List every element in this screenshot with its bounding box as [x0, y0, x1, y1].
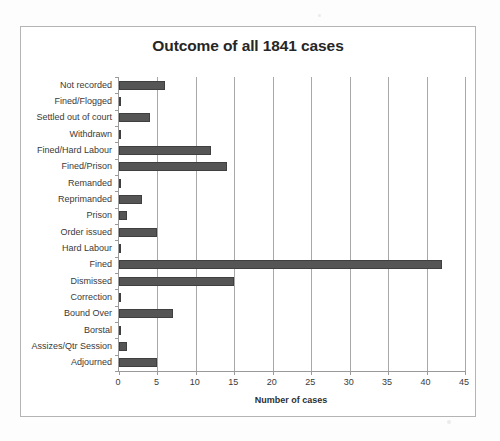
y-axis-label: Correction — [23, 289, 116, 305]
x-tick-mark — [196, 371, 197, 375]
x-axis-tick-label: 10 — [190, 377, 200, 387]
x-axis-title: Number of cases — [118, 395, 464, 405]
y-axis-label: Withdrawn — [23, 126, 116, 142]
bar[interactable] — [119, 162, 227, 171]
bar-slot — [119, 77, 465, 93]
x-tick-mark — [465, 371, 466, 375]
y-axis-label: Assizes/Qtr Session — [23, 338, 116, 354]
plot-area — [118, 77, 465, 372]
bar-slot — [119, 208, 465, 224]
x-axis-tick-label: 5 — [154, 377, 159, 387]
x-axis-tick-label: 15 — [228, 377, 238, 387]
bar[interactable] — [119, 97, 121, 106]
x-axis-tick-label: 30 — [344, 377, 354, 387]
bar[interactable] — [119, 81, 165, 90]
bar[interactable] — [119, 309, 173, 318]
bar-slot — [119, 142, 465, 158]
bar[interactable] — [119, 260, 442, 269]
bar[interactable] — [119, 228, 157, 237]
y-axis-label: Fined/Flogged — [23, 93, 116, 109]
x-tick-mark — [311, 371, 312, 375]
scan-speck — [318, 14, 321, 17]
y-axis-label: Fined — [23, 257, 116, 273]
bar-slot — [119, 322, 465, 338]
bar-slot — [119, 93, 465, 109]
y-axis-category-labels: Not recordedFined/FloggedSettled out of … — [23, 77, 116, 371]
bar-slot — [119, 224, 465, 240]
plot-wrapper: Not recordedFined/FloggedSettled out of … — [21, 27, 475, 416]
x-axis-tick-labels: 051015202530354045 — [118, 377, 464, 391]
bar[interactable] — [119, 113, 150, 122]
x-axis-tick-label: 45 — [459, 377, 469, 387]
y-axis-label: Fined/Hard Labour — [23, 142, 116, 158]
bar[interactable] — [119, 195, 142, 204]
x-tick-mark — [427, 371, 428, 375]
y-axis-label: Bound Over — [23, 306, 116, 322]
x-axis-tick-label: 35 — [382, 377, 392, 387]
x-axis-tick-label: 0 — [115, 377, 120, 387]
x-tick-mark — [388, 371, 389, 375]
bar-slot — [119, 126, 465, 142]
bar-slot — [119, 338, 465, 354]
bar-slot — [119, 110, 465, 126]
y-axis-label: Remanded — [23, 175, 116, 191]
bar-slot — [119, 257, 465, 273]
x-tick-mark — [119, 371, 120, 375]
gridline — [465, 77, 466, 371]
bar[interactable] — [119, 326, 121, 335]
bar[interactable] — [119, 244, 121, 253]
x-axis-tick-label: 40 — [421, 377, 431, 387]
y-axis-label: Reprimanded — [23, 191, 116, 207]
x-tick-mark — [234, 371, 235, 375]
y-axis-label: Prison — [23, 208, 116, 224]
y-axis-label: Order issued — [23, 224, 116, 240]
x-tick-mark — [273, 371, 274, 375]
y-axis-label: Dismissed — [23, 273, 116, 289]
x-tick-mark — [350, 371, 351, 375]
bar-slot — [119, 306, 465, 322]
y-axis-label: Not recorded — [23, 77, 116, 93]
bar-slot — [119, 159, 465, 175]
bar[interactable] — [119, 146, 211, 155]
y-axis-label: Adjourned — [23, 355, 116, 371]
bar-series — [119, 77, 465, 371]
y-axis-label: Fined/Prison — [23, 159, 116, 175]
bar[interactable] — [119, 130, 121, 139]
bar-slot — [119, 175, 465, 191]
bar-slot — [119, 191, 465, 207]
scan-speck — [447, 420, 451, 424]
y-axis-label: Hard Labour — [23, 240, 116, 256]
x-axis-tick-label: 20 — [267, 377, 277, 387]
y-axis-label: Borstal — [23, 322, 116, 338]
bar[interactable] — [119, 179, 121, 188]
bar[interactable] — [119, 277, 234, 286]
x-axis-tick-label: 25 — [305, 377, 315, 387]
bar[interactable] — [119, 342, 127, 351]
bar-slot — [119, 240, 465, 256]
bar[interactable] — [119, 293, 121, 302]
y-axis-label: Settled out of court — [23, 110, 116, 126]
bar-slot — [119, 273, 465, 289]
chart-frame: Outcome of all 1841 cases Not recordedFi… — [20, 26, 476, 417]
x-tick-mark — [157, 371, 158, 375]
bar[interactable] — [119, 358, 157, 367]
bar-slot — [119, 355, 465, 371]
bar[interactable] — [119, 211, 127, 220]
bar-slot — [119, 289, 465, 305]
